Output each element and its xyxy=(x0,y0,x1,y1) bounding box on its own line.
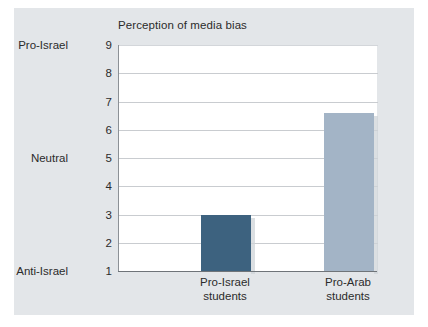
x-axis-label: Pro-Arabstudents xyxy=(298,276,398,303)
bar-shadow xyxy=(374,116,378,274)
y-axis-tick-label: 4 xyxy=(72,180,112,192)
y-axis-tick-labels: 123456789 xyxy=(70,45,112,271)
chart-title: Perception of media bias xyxy=(118,19,247,31)
y-axis-category-label: Pro-Israel xyxy=(0,39,68,51)
y-axis-tick-label: 8 xyxy=(72,67,112,79)
y-axis-tick-label: 3 xyxy=(72,209,112,221)
y-axis-tick-label: 9 xyxy=(72,39,112,51)
y-axis-tick-label: 6 xyxy=(72,124,112,136)
y-axis-category-label: Anti-Israel xyxy=(0,265,68,277)
y-axis-tick-label: 7 xyxy=(72,96,112,108)
bar-shadow xyxy=(251,218,255,275)
gridline xyxy=(119,102,378,103)
x-axis-line xyxy=(118,271,377,272)
gridline xyxy=(119,73,378,74)
x-axis-label-line: Pro-Israel xyxy=(175,276,275,290)
gridline xyxy=(119,45,378,46)
x-axis-label-line: students xyxy=(298,290,398,304)
bar-2[interactable] xyxy=(324,113,374,271)
chart-figure: Perception of media bias Pro-IsraelNeutr… xyxy=(0,0,428,327)
bar-1[interactable] xyxy=(201,215,251,272)
y-axis-tick-label: 1 xyxy=(72,265,112,277)
plot-area xyxy=(118,45,377,271)
x-axis-label-line: Pro-Arab xyxy=(298,276,398,290)
y-axis-category-label: Neutral xyxy=(0,152,68,164)
y-axis-category-labels: Pro-IsraelNeutralAnti-Israel xyxy=(0,45,68,271)
y-axis-tick-label: 2 xyxy=(72,237,112,249)
y-axis-tick-label: 5 xyxy=(72,152,112,164)
x-axis-label: Pro-Israelstudents xyxy=(175,276,275,303)
x-axis-label-line: students xyxy=(175,290,275,304)
